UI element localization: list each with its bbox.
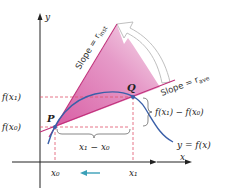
x-tick-x0: x₀: [51, 168, 60, 178]
delta-x-label: x₁ − x₀: [79, 142, 110, 152]
curve-label: y = f(x): [176, 140, 211, 150]
y-tick-fx1: f(x₁): [1, 92, 22, 102]
x-axis-arrow-icon: [150, 160, 157, 165]
point-q-label: Q: [127, 82, 136, 93]
delta-y-label: f(x₁) − f(x₀): [154, 107, 204, 117]
y-tick-fx0: f(x₀): [1, 122, 22, 132]
y-axis-arrow-icon: [38, 13, 43, 20]
x-tick-x1: x₁: [129, 168, 138, 178]
y-axis-label: y: [44, 12, 51, 22]
left-arrow-icon: [80, 170, 87, 176]
delta-x-brace: [57, 129, 130, 138]
point-p-label: P: [46, 113, 55, 124]
x-axis-label: x: [180, 152, 185, 162]
point-p: [53, 125, 57, 129]
point-q: [131, 95, 135, 99]
x-axis-arrowhead-icon: [185, 160, 192, 165]
derivative-diagram: y x P Q f(x₁) f(x₀) x₀ x₁ x₁ − x₀ f(x₁) …: [0, 0, 225, 196]
